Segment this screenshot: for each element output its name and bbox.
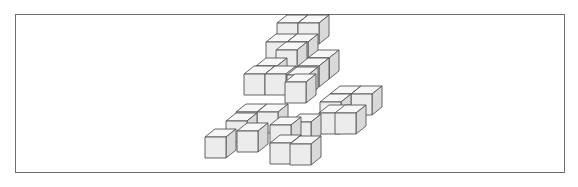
- cube-stack-diagram: [0, 0, 578, 187]
- cube: [205, 129, 236, 158]
- cube-front-face: [335, 113, 356, 134]
- cube: [335, 105, 366, 134]
- cube-front-face: [270, 143, 291, 164]
- cube-front-face: [237, 131, 258, 152]
- cube-front-face: [205, 137, 226, 158]
- cube: [285, 74, 316, 103]
- cube-front-face: [265, 74, 286, 95]
- cube-front-face: [244, 74, 265, 95]
- cube: [237, 123, 268, 152]
- cube-front-face: [290, 144, 311, 165]
- cube-front-face: [285, 82, 306, 103]
- cube: [290, 136, 321, 165]
